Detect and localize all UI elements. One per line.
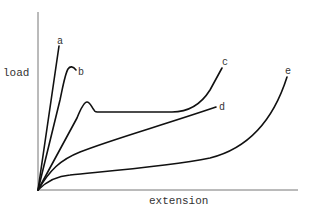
curve-c-label: c	[222, 57, 228, 68]
curve-d-label: d	[219, 102, 225, 113]
curve-a-label: a	[57, 36, 63, 47]
x-axis-label: extension	[149, 195, 208, 207]
curve-e	[38, 77, 287, 190]
load-extension-diagram: load extension a b c d e	[0, 0, 314, 212]
curve-c	[38, 68, 222, 190]
curve-b-label: b	[78, 67, 84, 78]
y-axis-label: load	[3, 67, 29, 79]
curve-b	[38, 67, 76, 190]
curve-d	[38, 107, 216, 190]
curve-e-label: e	[285, 66, 291, 77]
